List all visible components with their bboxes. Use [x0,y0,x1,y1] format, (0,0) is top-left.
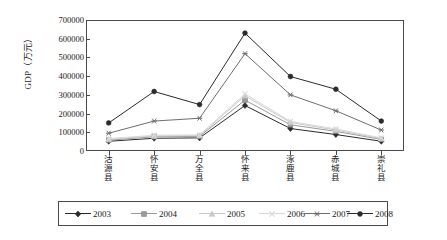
legend-item-2005[interactable]: 2005 [199,202,245,225]
x-axis-tick-label: 怀安县 [149,155,160,181]
y-axis-tick [86,95,90,96]
legend-item-2006[interactable]: 2006 [259,202,305,225]
data-point-square [142,211,147,216]
x-axis-tick-label: 沽源县 [103,155,114,181]
chart-figure: GDP（万元） 70000060000050000040000030000020… [0,0,447,240]
y-axis-tick-label: 300000 [38,91,84,100]
legend-marker-square-icon [131,209,157,219]
x-axis-tick-label: 涿鹿县 [285,155,296,181]
y-axis-tick [86,57,90,58]
data-point-diamond [75,211,80,217]
legend-marker-circle-icon [347,209,373,219]
legend-item-2008[interactable]: 2008 [347,202,393,225]
legend-label: 2004 [157,209,177,219]
data-point-triangle [209,211,215,216]
x-axis-tick-label: 怀来县 [240,155,251,181]
data-point-cross [269,211,274,216]
y-axis-title: GDP（万元） [21,17,34,107]
y-axis-tick-label: 100000 [38,128,84,137]
data-point-asterisk [314,211,320,216]
legend-marker-triangle-icon [199,209,225,219]
y-axis-tick-label: 200000 [38,109,84,118]
y-axis-tick [86,132,90,133]
data-point-circle [358,211,363,216]
legend-label: 2005 [225,209,245,219]
y-axis-tick-label: 600000 [38,34,84,43]
legend-item-2003[interactable]: 2003 [65,202,111,225]
y-axis-tick [86,114,90,115]
y-axis-tick-label: 0 [38,147,84,156]
y-axis-tick-label: 500000 [38,53,84,62]
legend-label: 2008 [373,209,393,219]
legend-item-2007[interactable]: 2007 [304,202,350,225]
y-axis-tick-label: 400000 [38,72,84,81]
legend-marker-diamond-icon [65,209,91,219]
legend-label: 2003 [91,209,111,219]
legend-marker-asterisk-icon [304,209,330,219]
x-axis-tick-label: 崇礼县 [376,155,387,181]
y-axis-tick-labels: 7000006000005000004000003000002000001000… [34,20,84,151]
y-axis-tick-label: 700000 [38,16,84,25]
x-axis-tick-label: 赤城县 [330,155,341,181]
x-axis-tick-label: 万全县 [194,155,205,181]
legend-marker-cross-icon [259,209,285,219]
y-axis-tick [86,39,90,40]
plot-area [86,20,404,151]
legend-item-2004[interactable]: 2004 [131,202,177,225]
y-axis-tick [86,76,90,77]
chart-legend: 200320042005200620072008 [58,201,388,226]
legend-label: 2006 [285,209,305,219]
